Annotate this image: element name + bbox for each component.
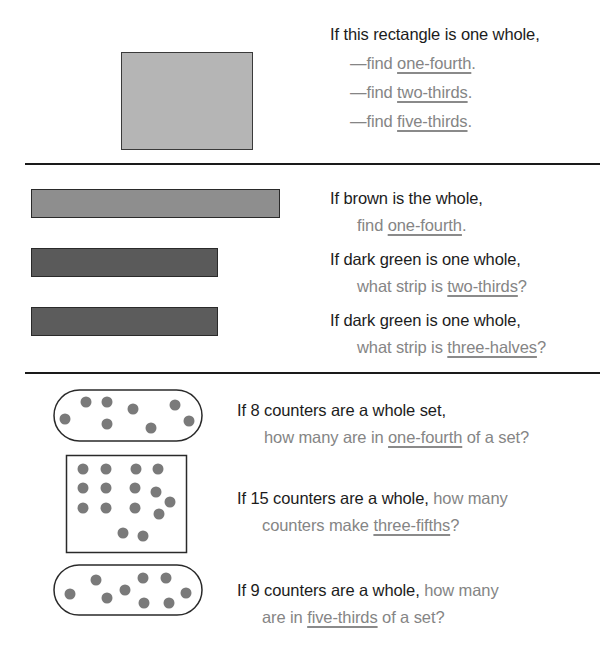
- counter-dot: [60, 414, 71, 425]
- section3-question-8: how many are in one-fourth of a set?: [264, 427, 529, 447]
- counter-dot: [128, 404, 139, 415]
- item-prefix: are in: [262, 608, 307, 626]
- inline-question: how many: [429, 489, 508, 507]
- counter-dot: [101, 464, 112, 475]
- counter-dot: [101, 503, 112, 514]
- counter-dot: [165, 497, 176, 508]
- counter-dot: [102, 419, 113, 430]
- counter-dot: [65, 589, 76, 600]
- counter-dot: [151, 487, 162, 498]
- counter-dot: [138, 573, 149, 584]
- item-suffix: of a set?: [462, 428, 529, 446]
- section3-question-9: are in five-thirds of a set?: [262, 607, 444, 627]
- prompt-text: If 9 counters are a whole,: [237, 581, 420, 599]
- counter-figures: [0, 0, 615, 660]
- counter-dot: [146, 423, 157, 434]
- counter-oval-8: [54, 390, 202, 441]
- counter-dot: [139, 598, 150, 609]
- fraction-term: one-fourth: [388, 428, 462, 446]
- counters-9: [65, 573, 192, 609]
- counter-dot: [91, 575, 102, 586]
- section3-prompt-8: If 8 counters are a whole set,: [237, 400, 446, 420]
- counter-dot: [161, 573, 172, 584]
- counter-dot: [131, 464, 142, 475]
- counter-dot: [181, 588, 192, 599]
- item-suffix: of a set?: [378, 608, 445, 626]
- counter-dot: [78, 464, 89, 475]
- section3-prompt-9: If 9 counters are a whole, how many: [237, 580, 499, 600]
- inline-question: how many: [420, 581, 499, 599]
- counters-8: [60, 397, 195, 434]
- counter-dot: [164, 598, 175, 609]
- counter-dot: [130, 503, 141, 514]
- prompt-text: If 8 counters are a whole set,: [237, 401, 446, 419]
- counter-dot: [118, 528, 129, 539]
- section3-question-15: counters make three-fifths?: [262, 515, 459, 535]
- fraction-term: five-thirds: [307, 608, 377, 626]
- item-prefix: how many are in: [264, 428, 388, 446]
- counter-dot: [101, 483, 112, 494]
- counter-dot: [120, 585, 131, 596]
- item-prefix: counters make: [262, 516, 373, 534]
- counter-dot: [130, 483, 141, 494]
- figure-caption-cropped: [0, 650, 120, 660]
- counter-dot: [184, 416, 195, 427]
- counter-dot: [81, 397, 92, 408]
- counter-dot: [154, 509, 165, 520]
- counter-dot: [102, 397, 113, 408]
- counters-15: [78, 464, 176, 542]
- counter-dot: [153, 464, 164, 475]
- counter-dot: [138, 531, 149, 542]
- counter-dot: [102, 593, 113, 604]
- item-suffix: ?: [450, 516, 459, 534]
- counter-dot: [78, 483, 89, 494]
- counter-dot: [170, 400, 181, 411]
- counter-dot: [78, 503, 89, 514]
- section3-prompt-15: If 15 counters are a whole, how many: [237, 488, 508, 508]
- prompt-text: If 15 counters are a whole,: [237, 489, 429, 507]
- fraction-term: three-fifths: [373, 516, 450, 534]
